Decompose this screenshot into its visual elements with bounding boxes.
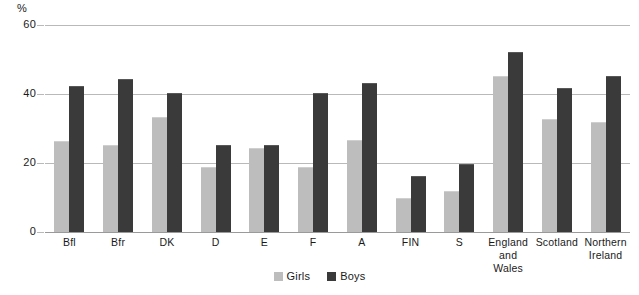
y-axis-unit-label: % <box>17 2 27 14</box>
category-label: FIN <box>386 236 435 249</box>
bar-boys <box>216 145 231 232</box>
category-label: F <box>289 236 338 249</box>
category-label: Bfr <box>94 236 143 249</box>
y-tick-mark-0 <box>37 232 44 233</box>
bar-boys <box>264 145 279 232</box>
y-tick-label-0: 0 <box>6 225 36 237</box>
bar-boys <box>459 164 474 232</box>
y-tick-label-60: 60 <box>6 18 36 30</box>
bar-girls <box>54 141 69 232</box>
bar-girls <box>249 148 264 232</box>
y-tick-mark-20 <box>37 163 44 164</box>
bar-groups <box>45 25 630 232</box>
bar-boys <box>167 93 182 232</box>
bar-girls <box>152 117 167 232</box>
category-label: NorthernIreland <box>581 236 630 262</box>
bar-boys <box>508 52 523 232</box>
bar-girls <box>347 140 362 232</box>
y-tick-mark-40 <box>37 94 44 95</box>
boys-swatch-icon <box>327 272 336 281</box>
bar-boys <box>411 176 426 232</box>
girls-swatch-icon <box>274 272 283 281</box>
bar-boys <box>118 79 133 232</box>
bar-boys <box>606 76 621 232</box>
category-label: D <box>191 236 240 249</box>
bar-group <box>396 25 426 232</box>
bar-group <box>249 25 279 232</box>
chart-legend: GirlsBoys <box>0 270 639 282</box>
category-label: Bfl <box>45 236 94 249</box>
bar-group <box>201 25 231 232</box>
bar-group <box>493 25 523 232</box>
y-tick-label-20: 20 <box>6 156 36 168</box>
bar-group <box>54 25 84 232</box>
bar-girls <box>542 119 557 232</box>
bar-group <box>103 25 133 232</box>
bar-boys <box>313 93 328 232</box>
legend-label: Boys <box>340 270 365 282</box>
bar-girls <box>444 191 459 232</box>
bar-girls <box>396 198 411 232</box>
bar-group <box>444 25 474 232</box>
plot-area <box>45 25 630 232</box>
bar-group <box>542 25 572 232</box>
bar-group <box>298 25 328 232</box>
bar-girls <box>201 167 216 232</box>
bar-group <box>347 25 377 232</box>
bar-group <box>152 25 182 232</box>
y-tick-label-40: 40 <box>6 87 36 99</box>
category-label: DK <box>143 236 192 249</box>
bar-girls <box>298 167 313 232</box>
legend-item-boys[interactable]: Boys <box>327 270 365 282</box>
bar-girls <box>591 122 606 232</box>
y-tick-mark-60 <box>37 25 44 26</box>
legend-label: Girls <box>287 270 311 282</box>
category-label: E <box>240 236 289 249</box>
bar-boys <box>557 88 572 232</box>
bar-group <box>591 25 621 232</box>
category-label: A <box>338 236 387 249</box>
gridline-0 <box>45 232 630 233</box>
bar-girls <box>493 76 508 232</box>
bar-boys <box>69 86 84 232</box>
legend-item-girls[interactable]: Girls <box>274 270 311 282</box>
bar-chart: % 0204060 BflBfrDKDEFAFINSEnglandandWale… <box>0 0 639 295</box>
category-label: S <box>435 236 484 249</box>
bar-boys <box>362 83 377 232</box>
bar-girls <box>103 145 118 232</box>
category-label: Scotland <box>533 236 582 249</box>
